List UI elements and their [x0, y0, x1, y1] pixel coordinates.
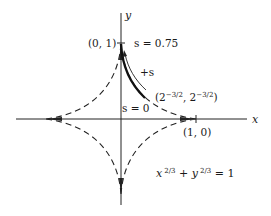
cusp-left — [46, 117, 62, 121]
cusp-bottom — [119, 178, 123, 194]
s-0-label: s = 0 — [122, 102, 150, 114]
plus-s-label: +s — [140, 66, 154, 78]
equation-label: x2/3 + y2/3 = 1 — [156, 167, 234, 180]
midpoint-label: (2−3/2, 2−3/2) — [155, 91, 218, 103]
x-axis-label: x — [252, 113, 259, 126]
cusp-right — [180, 117, 196, 121]
y-axis-label: y — [124, 9, 132, 22]
s-075-label: s = 0.75 — [134, 37, 178, 49]
point-1-0-label: (1, 0) — [183, 126, 211, 138]
point-0-1-label: (0, 1) — [88, 37, 116, 49]
astroid-diagram: y x (0, 1) s = 0.75 +s s = 0 (2−3/2, 2−3… — [0, 0, 271, 216]
